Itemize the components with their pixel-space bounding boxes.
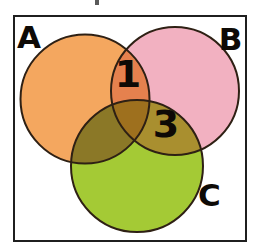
value-b-c: 3: [153, 102, 179, 146]
value-a-b: 1: [115, 52, 141, 96]
venn-figure: A B C 1 3: [0, 0, 260, 249]
venn-diagram: A B C 1 3: [0, 0, 260, 249]
label-set-b: B: [219, 21, 243, 57]
label-set-a: A: [17, 19, 41, 55]
crop-artifact-mark: [95, 0, 99, 5]
label-set-c: C: [198, 177, 221, 213]
